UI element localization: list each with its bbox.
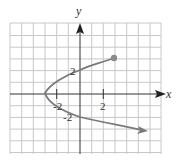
x-tick-label-neg: -2 (53, 100, 62, 112)
y-tick-label-neg: -2 (63, 111, 72, 123)
endpoint-dot (111, 55, 117, 61)
y-axis-label: y (75, 4, 82, 18)
x-tick-label-pos: 2 (100, 100, 106, 112)
axes (10, 30, 160, 154)
y-tick-label-pos: 2 (70, 65, 76, 77)
graph: y x 2 -2 2 -2 (0, 0, 178, 162)
grid (10, 23, 161, 154)
x-axis-label: x (165, 87, 172, 101)
